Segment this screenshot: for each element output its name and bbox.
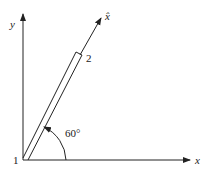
angle-label: 60° — [65, 127, 80, 139]
x-axis-label: x — [194, 154, 200, 166]
diagram-canvas: y x x̂ 2 1 60° — [0, 0, 204, 171]
rod — [23, 52, 82, 160]
rod-end-1-label: 1 — [13, 154, 19, 166]
angle-arc — [44, 127, 66, 160]
x-hat-label: x̂ — [104, 10, 110, 22]
y-axis-label: y — [9, 18, 15, 30]
rod-end-2-label: 2 — [86, 52, 92, 64]
x-hat-axis — [80, 18, 101, 55]
